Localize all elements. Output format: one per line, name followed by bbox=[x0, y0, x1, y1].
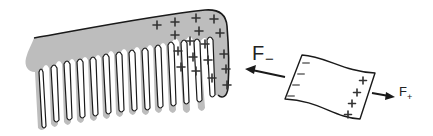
force-subscript: + bbox=[407, 92, 412, 102]
force-subscript: − bbox=[265, 50, 274, 67]
force-arrow-positive bbox=[372, 92, 395, 100]
figure-canvas: F − F + bbox=[0, 0, 433, 136]
force-symbol: F bbox=[399, 84, 407, 99]
paper-strip bbox=[285, 55, 375, 119]
force-label-negative: F − bbox=[252, 42, 274, 67]
force-symbol: F bbox=[252, 42, 264, 64]
comb bbox=[25, 10, 231, 130]
force-label-positive: F + bbox=[399, 84, 412, 102]
